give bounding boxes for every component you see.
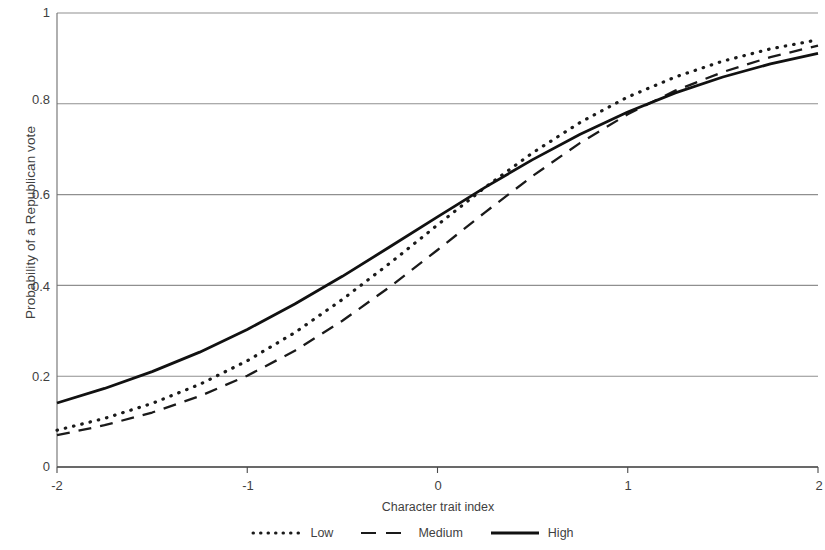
y-tick-label-0: 0 [6,459,50,474]
legend-item-low: Low [251,527,333,540]
axis-lines [57,13,818,467]
legend-item-medium: Medium [359,527,462,540]
dotted-line-swatch [251,528,303,538]
series-line-low [57,40,818,430]
plot-area [0,0,825,550]
dashed-line-swatch [359,528,411,538]
x-tick-label-2: 2 [789,478,825,493]
chart-figure: Probability of a Republican vote 1 0.8 0… [0,0,825,550]
y-tick-label-0-6: 0.6 [6,187,50,202]
y-tick-label-0-8: 0.8 [6,92,50,107]
y-tick-label-0-2: 0.2 [6,369,50,384]
legend-label-medium: Medium [418,527,462,540]
legend-label-high: High [548,527,574,540]
axis-ticks [57,467,818,473]
y-tick-label-0-4: 0.4 [6,279,50,294]
y-axis-label: Probability of a Republican vote [23,63,38,383]
solid-line-swatch [489,528,541,538]
x-tick-label-neg1: -1 [218,478,278,493]
legend-item-high: High [489,527,574,540]
x-tick-label-1: 1 [598,478,658,493]
gridlines [57,13,818,467]
x-tick-label-0: 0 [408,478,468,493]
legend-label-low: Low [310,527,333,540]
y-tick-label-1: 1 [6,5,50,20]
chart-legend: Low Medium High [0,527,825,540]
x-tick-label-neg2: -2 [27,478,87,493]
x-axis-label: Character trait index [57,500,819,514]
series-line-high [57,53,818,403]
